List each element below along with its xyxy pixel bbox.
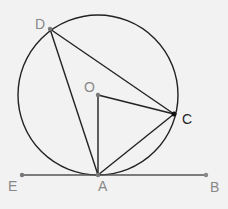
point-o xyxy=(96,93,100,97)
geometry-diagram: D O C A E B xyxy=(0,0,228,209)
label-d: D xyxy=(35,16,45,32)
label-a: A xyxy=(98,178,108,194)
point-a xyxy=(96,173,100,177)
segment-da xyxy=(50,29,98,175)
point-e xyxy=(20,173,24,177)
segment-dc xyxy=(50,29,174,114)
point-d xyxy=(48,27,52,31)
point-b xyxy=(204,173,208,177)
label-o: O xyxy=(84,79,95,95)
diagram-canvas: D O C A E B xyxy=(0,0,228,209)
point-c xyxy=(172,112,177,117)
label-e: E xyxy=(8,178,17,194)
label-b: B xyxy=(210,179,219,195)
label-c: C xyxy=(182,111,192,127)
segment-oc xyxy=(98,95,174,114)
